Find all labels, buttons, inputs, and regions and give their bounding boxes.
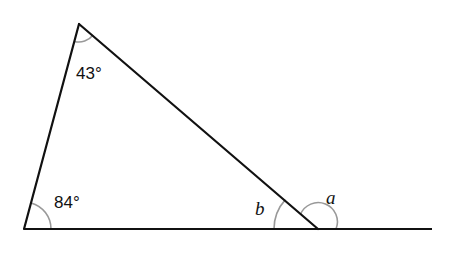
angle-arc-top [74,35,93,42]
triangle-diagram: 43° 84° b a [0,0,453,254]
angle-label-bottom-left: 84° [54,193,80,212]
side-right [79,24,318,229]
angle-label-top: 43° [76,64,102,83]
angle-label-a: a [326,187,336,208]
angle-label-b: b [255,198,265,219]
angle-arc-b [274,200,285,229]
angle-arc-bottom-left [31,203,51,229]
